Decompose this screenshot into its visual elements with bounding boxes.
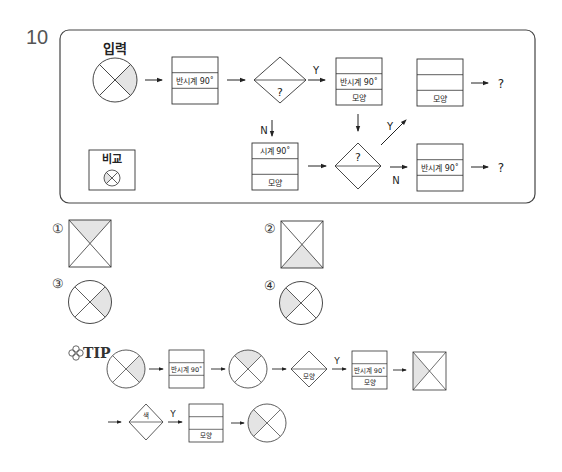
svg-text:반시계 90˚: 반시계 90˚: [171, 365, 203, 374]
svg-text:모양: 모양: [433, 95, 448, 104]
process-box-4: 시계 90˚ 모양: [252, 143, 298, 190]
svg-text:?: ?: [355, 151, 361, 164]
question-number: 10: [26, 26, 48, 48]
tip-result-square: [413, 352, 446, 390]
tip-final-circle: [248, 404, 286, 442]
no-label: N: [392, 175, 399, 186]
tip-process-box-1: 반시계 90˚: [169, 350, 204, 388]
process-box-5: 반시계 90˚: [417, 144, 463, 191]
svg-text:반시계 90˚: 반시계 90˚: [340, 77, 378, 87]
diagram-canvas: 10 입력 반시계 90˚ ? Y 반시계 90˚ 모양 모양: [0, 0, 562, 472]
yes-label: Y: [386, 121, 394, 132]
process-box-2: 반시계 90˚ 모양: [336, 58, 382, 105]
option-3[interactable]: ③: [52, 276, 112, 324]
yes-label: Y: [312, 65, 320, 76]
svg-text:반시계 90˚: 반시계 90˚: [421, 163, 459, 173]
output-2: ?: [498, 161, 504, 175]
svg-text:모양: 모양: [352, 94, 367, 103]
svg-text:모양: 모양: [364, 379, 376, 387]
svg-text:비교: 비교: [102, 152, 122, 166]
option-1[interactable]: ①: [52, 220, 111, 267]
option-2[interactable]: ②: [264, 221, 323, 268]
input-circle-icon: [93, 58, 137, 102]
tip-header: TIP: [69, 345, 111, 361]
arrow: [381, 120, 406, 145]
no-label: N: [260, 125, 267, 136]
input-label: 입력: [103, 41, 127, 56]
svg-text:색: 색: [143, 411, 149, 420]
svg-text:시계 90˚: 시계 90˚: [260, 146, 291, 156]
output-1: ?: [498, 77, 504, 91]
svg-text:②: ②: [264, 221, 276, 236]
svg-text:?: ?: [277, 86, 283, 99]
process-box-1: 반시계 90˚: [172, 57, 218, 104]
tip-decision-shape: 모양: [291, 351, 327, 387]
tip-circle-1: [107, 350, 145, 388]
svg-text:모양: 모양: [303, 373, 315, 381]
tip-decision-color: 색: [129, 404, 163, 440]
svg-text:TIP: TIP: [83, 345, 111, 361]
compare-box: 비교: [89, 150, 135, 190]
process-box-3: 모양: [417, 59, 463, 106]
decision-diamond-1: ?: [254, 57, 306, 103]
yes-label: Y: [333, 356, 340, 366]
svg-text:모양: 모양: [200, 432, 212, 440]
yes-label: Y: [169, 409, 176, 419]
svg-text:③: ③: [52, 276, 64, 291]
clover-icon: [69, 346, 83, 360]
tip-process-box-3: 모양: [189, 404, 223, 442]
svg-text:①: ①: [52, 221, 64, 236]
tip-process-box-2: 반시계 90˚ 모양: [352, 351, 387, 389]
tip-circle-2: [229, 350, 267, 388]
decision-diamond-2: ?: [335, 143, 381, 189]
svg-text:④: ④: [264, 278, 276, 293]
svg-text:모양: 모양: [268, 179, 283, 188]
svg-text:반시계 90˚: 반시계 90˚: [176, 76, 214, 86]
option-4[interactable]: ④: [264, 278, 323, 325]
svg-text:반시계 90˚: 반시계 90˚: [354, 366, 386, 375]
